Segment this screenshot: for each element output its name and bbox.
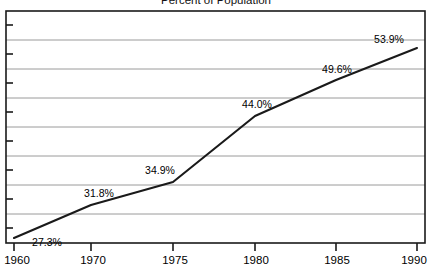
x-axis-tick-label: 1980 xyxy=(243,254,269,266)
x-axis-tick-label: 1990 xyxy=(401,254,427,266)
data-point-label: 27.3% xyxy=(32,236,62,248)
data-point-label: 31.8% xyxy=(84,187,114,199)
x-axis-tick-label: 1970 xyxy=(80,254,106,266)
x-axis-tick-label: 1975 xyxy=(162,254,188,266)
chart-plot-area xyxy=(0,0,432,276)
chart-container: Percent of Population xyxy=(0,0,432,276)
data-point-label: 34.9% xyxy=(145,164,175,176)
x-axis-tick-label: 1960 xyxy=(4,254,30,266)
x-axis-ticks xyxy=(14,243,417,251)
data-point-label: 49.6% xyxy=(322,63,352,75)
data-point-label: 44.0% xyxy=(242,98,272,110)
x-axis-tick-label: 1985 xyxy=(324,254,350,266)
data-point-label: 53.9% xyxy=(374,33,404,45)
